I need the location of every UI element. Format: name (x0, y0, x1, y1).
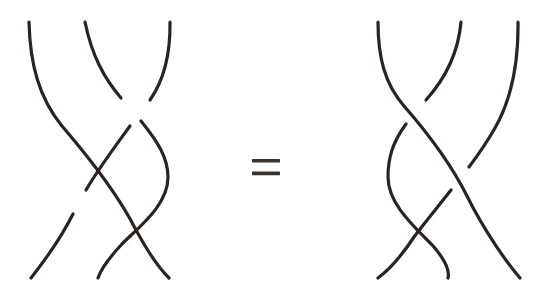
left-strand-2-seg-a (85, 22, 121, 98)
left-braid-group (29, 22, 170, 278)
left-strand-1 (29, 22, 169, 278)
left-strand-3-seg-a (150, 22, 170, 100)
right-braid-group (378, 22, 520, 278)
left-strand-2-seg-b (98, 121, 168, 278)
right-strand-3-seg-b (378, 190, 451, 278)
right-strand-1 (378, 22, 520, 278)
equals-sign-bar-top (252, 159, 280, 163)
equals-sign-bar-bottom (252, 172, 280, 176)
left-strand-3-seg-b (86, 126, 130, 190)
right-strand-3-seg-a (469, 22, 518, 167)
right-strand-2-seg-b (388, 124, 448, 278)
braid-diagram-canvas (0, 0, 554, 300)
equals-sign-group (252, 159, 280, 175)
right-strand-2-seg-a (426, 22, 461, 100)
left-strand-3-seg-c (31, 214, 73, 278)
braid-relation-svg (0, 0, 554, 300)
